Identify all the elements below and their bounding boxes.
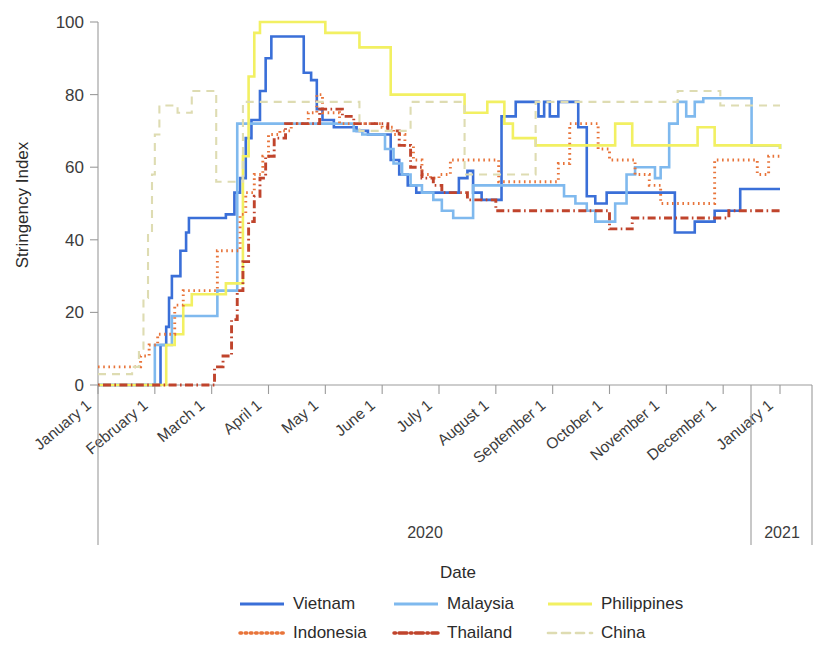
x-tick-label: January 1 (713, 396, 776, 453)
legend-item-china[interactable]: China (548, 623, 646, 642)
legend-label-philippines: Philippines (601, 594, 683, 613)
series-line-indonesia (98, 95, 780, 367)
x-axis-tick-labels: January 1February 1March 1April 1May 1Ju… (31, 396, 776, 466)
x-tick-label: July 1 (393, 396, 435, 435)
x-tick-label: March 1 (154, 396, 208, 445)
chart-canvas: 020406080100 January 1February 1March 1A… (0, 0, 821, 649)
legend-label-vietnam: Vietnam (293, 594, 355, 613)
x-tick-label: February 1 (82, 396, 150, 457)
y-axis-ticks (90, 22, 98, 385)
legend-label-thailand: Thailand (447, 623, 512, 642)
series-line-malaysia (98, 98, 780, 385)
x-axis-title: Date (440, 563, 476, 582)
series-line-vietnam (98, 37, 780, 385)
legend-item-indonesia[interactable]: Indonesia (240, 623, 367, 642)
legend-item-thailand[interactable]: Thailand (394, 623, 512, 642)
y-tick-label: 100 (56, 13, 84, 32)
x-tick-label: June 1 (332, 396, 379, 439)
series-layer (98, 22, 780, 385)
legend-label-china: China (601, 623, 646, 642)
legend-label-malaysia: Malaysia (447, 594, 515, 613)
y-tick-label: 40 (65, 231, 84, 250)
stringency-index-chart: 020406080100 January 1February 1March 1A… (0, 0, 821, 649)
y-tick-label: 20 (65, 303, 84, 322)
year-label-2021: 2021 (764, 524, 800, 541)
x-axis-ticks (98, 385, 780, 394)
y-axis-title: Stringency Index (13, 141, 32, 268)
legend-item-philippines[interactable]: Philippines (548, 594, 683, 613)
y-axis-tick-labels: 020406080100 (56, 13, 84, 395)
year-label-2020: 2020 (407, 524, 443, 541)
y-tick-label: 80 (65, 86, 84, 105)
legend-item-vietnam[interactable]: Vietnam (240, 594, 355, 613)
y-tick-label: 0 (75, 376, 84, 395)
legend-item-malaysia[interactable]: Malaysia (394, 594, 515, 613)
x-tick-label: August 1 (434, 396, 492, 448)
y-tick-label: 60 (65, 158, 84, 177)
chart-legend: VietnamMalaysiaPhilippinesIndonesiaThail… (240, 594, 683, 642)
series-line-thailand (98, 109, 780, 385)
legend-label-indonesia: Indonesia (293, 623, 367, 642)
x-tick-label: May 1 (278, 396, 321, 436)
x-tick-label: April 1 (220, 396, 265, 437)
